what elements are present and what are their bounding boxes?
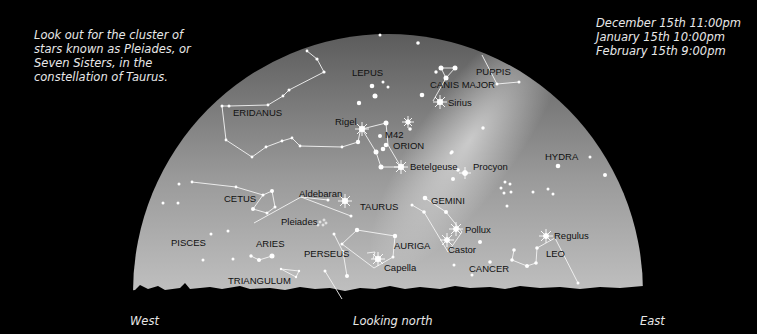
intro-line: stars known as Pleiades, or: [34, 42, 194, 56]
label-perseus: PERSEUS: [304, 248, 349, 259]
date-line: January 15th 10:00pm: [596, 30, 756, 44]
date-line: February 15th 9:00pm: [596, 44, 756, 58]
label-cetus: CETUS: [224, 193, 256, 204]
label-lepus: LEPUS: [352, 67, 383, 78]
label-hydra: HYDRA: [545, 151, 579, 162]
label-castor: Castor: [448, 244, 476, 255]
label-betelgeuse: Betelgeuse: [410, 161, 458, 172]
label-auriga: AURIGA: [394, 240, 431, 251]
intro-line: constellation of Taurus.: [34, 70, 194, 84]
label-pollux: Pollux: [465, 224, 491, 235]
label-triangulum: TRIANGULUM: [228, 275, 291, 286]
intro-note: Look out for the cluster of stars known …: [34, 28, 194, 84]
star-betelgeuse-icon: [394, 160, 408, 174]
label-eridanus: ERIDANUS: [233, 107, 282, 118]
direction-west: West: [130, 314, 159, 328]
label-procyon: Procyon: [473, 161, 508, 172]
star-rigel-icon: [355, 122, 369, 136]
label-pisces: PISCES: [171, 237, 206, 248]
intro-line: Look out for the cluster of: [34, 28, 194, 42]
label-taurus: TAURUS: [360, 201, 398, 212]
star-pollux-icon: [449, 222, 463, 236]
date-line: December 15th 11:00pm: [596, 16, 756, 30]
label-sirius: Sirius: [448, 97, 472, 108]
star-regulus-icon: [539, 229, 553, 243]
label-gemini: GEMINI: [431, 195, 465, 206]
intro-line: Seven Sisters, in the: [34, 56, 194, 70]
star-capella-icon: [371, 252, 385, 266]
label-capella: Capella: [384, 262, 417, 273]
label-m42: M42: [385, 129, 403, 140]
direction-center: Looking north: [353, 314, 432, 328]
label-aldebaran: Aldebaran: [299, 188, 342, 199]
star-sirius-icon: [433, 95, 447, 109]
label-canis-major: CANIS MAJOR: [430, 79, 495, 90]
direction-east: East: [640, 314, 665, 328]
label-regulus: Regulus: [554, 230, 589, 241]
label-leo: LEO: [546, 248, 565, 259]
label-aries: ARIES: [256, 238, 285, 249]
label-puppis: PUPPIS: [476, 66, 511, 77]
label-rigel: Rigel: [335, 116, 357, 127]
label-orion: ORION: [393, 140, 424, 151]
viewing-dates: December 15th 11:00pm January 15th 10:00…: [596, 16, 756, 58]
label-cancer: CANCER: [469, 263, 509, 274]
label-pleiades: Pleiades: [281, 216, 318, 227]
